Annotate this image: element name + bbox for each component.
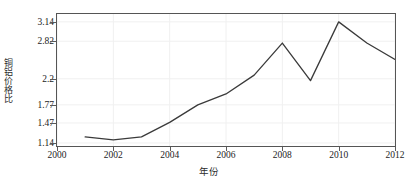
x-tick-label: 2006	[217, 150, 236, 160]
chart-figure: 铜铝价格比 1.141.471.772.22.823.14 2000200220…	[0, 0, 412, 193]
x-tick-label: 2002	[104, 150, 123, 160]
x-tick-label: 2000	[48, 150, 67, 160]
y-axis-title-text: 铜铝价格比	[3, 58, 13, 103]
y-tick-mark	[50, 105, 56, 106]
x-axis-title-text: 年份	[199, 167, 219, 177]
x-tick-label: 2010	[329, 150, 348, 160]
y-tick-mark	[50, 41, 56, 42]
x-tick-label: 2012	[386, 150, 405, 160]
y-tick-mark	[50, 79, 56, 80]
x-tick-mark	[395, 147, 396, 151]
y-tick-mark	[50, 143, 56, 144]
x-tick-mark	[339, 147, 340, 151]
x-tick-mark	[170, 147, 171, 151]
plot-area	[56, 13, 396, 147]
y-tick-mark	[50, 22, 56, 23]
y-axis-title: 铜铝价格比	[0, 0, 18, 160]
x-tick-mark	[57, 147, 58, 151]
x-tick-label: 2008	[273, 150, 292, 160]
x-tick-label: 2004	[160, 150, 179, 160]
series-canvas	[57, 14, 395, 146]
y-tick-mark	[50, 123, 56, 124]
x-tick-mark	[113, 147, 114, 151]
x-tick-mark	[226, 147, 227, 151]
x-tick-mark	[282, 147, 283, 151]
data-series-line	[85, 22, 395, 140]
x-axis-title: 年份	[0, 164, 412, 178]
